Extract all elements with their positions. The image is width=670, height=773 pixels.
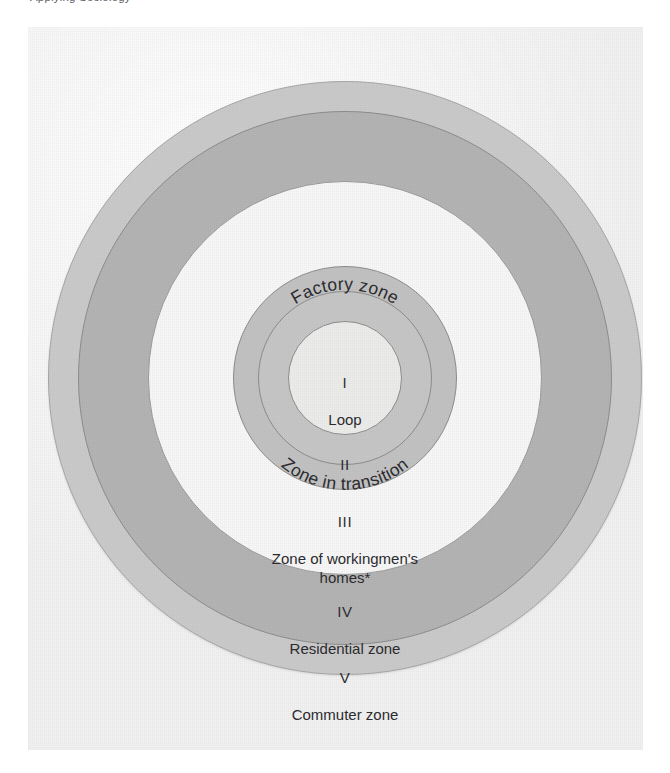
curved-label-zone-in-transition-text: Zone in transition bbox=[278, 454, 412, 494]
top-caption-strip: Applying Sociology bbox=[0, 0, 670, 9]
concentric-zone-diagram: Factory zone Zone in transition I Loop I… bbox=[28, 27, 643, 750]
top-caption-text: Applying Sociology bbox=[30, 0, 131, 3]
curved-label-zone-in-transition: Zone in transition bbox=[278, 454, 412, 494]
curved-label-factory-zone-text: Factory zone bbox=[287, 274, 402, 308]
curved-label-factory-zone: Factory zone bbox=[287, 274, 402, 308]
figure-panel: Factory zone Zone in transition I Loop I… bbox=[28, 27, 643, 750]
curved-label-group: Factory zone Zone in transition bbox=[28, 27, 643, 750]
